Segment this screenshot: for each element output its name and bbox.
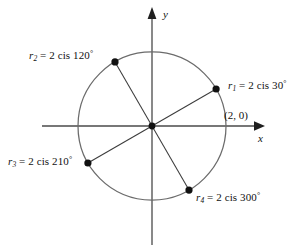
root-label-r4: r4 = 2 cis 300° — [196, 192, 260, 205]
figure-canvas — [0, 0, 300, 249]
y-axis-arrowhead — [148, 7, 157, 19]
root-label-r3-body: = 2 cis 210 — [16, 155, 69, 167]
radius-line-r4 — [152, 126, 189, 190]
root-label-r1-body: = 2 cis 30 — [236, 79, 283, 91]
radius-line-r3 — [88, 126, 152, 163]
root-label-r2-degree: ° — [90, 49, 93, 58]
x-axis-arrowhead — [254, 121, 265, 130]
radius-line-r1 — [152, 89, 216, 126]
root-point-r1 — [213, 85, 220, 92]
origin-point — [149, 123, 156, 130]
radius-line-r2 — [115, 62, 152, 126]
root-label-r4-degree: ° — [257, 191, 260, 200]
root-label-r4-body: = 2 cis 300 — [204, 191, 257, 203]
x-axis-label: x — [258, 133, 263, 144]
x-intercept-label: (2, 0) — [224, 110, 248, 121]
y-axis-label: y — [163, 9, 168, 20]
root-point-r3 — [84, 159, 91, 166]
root-point-r2 — [111, 58, 118, 65]
root-label-r3-degree: ° — [69, 155, 72, 164]
root-label-r3: r3 = 2 cis 210° — [8, 156, 72, 169]
root-label-r1: r1 = 2 cis 30° — [228, 80, 287, 93]
root-label-r2-body: = 2 cis 120 — [37, 49, 90, 61]
root-label-r1-degree: ° — [283, 79, 286, 88]
root-point-r4 — [185, 187, 192, 194]
root-label-r2: r2 = 2 cis 120° — [29, 50, 93, 63]
complex-roots-figure: r1 = 2 cis 30° r2 = 2 cis 120° r3 = 2 ci… — [0, 0, 300, 249]
